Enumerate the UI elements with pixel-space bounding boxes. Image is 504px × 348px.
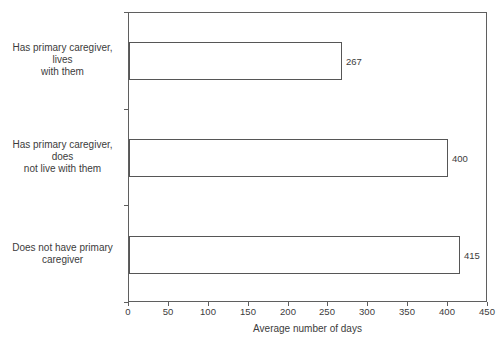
category-label-line: Has primary caregiver, does [2,139,123,163]
bar-value-label: 415 [464,249,480,260]
x-axis-tick-label: 250 [319,306,335,317]
category-label-line: with them [2,66,123,78]
x-axis-title: Average number of days [128,323,487,334]
category-label: Has primary caregiver, doesnot live with… [2,139,123,175]
x-axis-tick-label: 450 [479,306,495,317]
category-label: Has primary caregiver, liveswith them [2,42,123,78]
x-axis-tick-label: 150 [240,306,256,317]
y-axis-tick [124,302,128,303]
x-axis-tick-label: 300 [359,306,375,317]
category-label-line: not live with them [2,163,123,175]
x-axis-tick-label: 50 [163,306,174,317]
category-label-line: Has primary caregiver, lives [2,42,123,66]
x-axis-tick-label: 400 [439,306,455,317]
y-axis-tick [124,109,128,110]
category-label: Does not have primarycaregiver [2,242,123,266]
x-axis-tick-label: 100 [200,306,216,317]
y-axis-tick [124,12,128,13]
category-label-line: Does not have primary [2,242,123,254]
x-axis-tick-label: 0 [125,306,130,317]
category-label-line: caregiver [2,254,123,266]
bar [129,236,460,274]
bar-chart: 267400415 050100150200250300350400450 Av… [0,0,504,348]
plot-area: 267400415 [128,12,487,302]
bar-value-label: 400 [452,153,468,164]
x-axis-tick-label: 200 [280,306,296,317]
y-axis-tick [124,205,128,206]
bar-value-label: 267 [346,56,362,67]
bar [129,139,448,177]
bar [129,42,342,80]
x-axis-tick-label: 350 [399,306,415,317]
